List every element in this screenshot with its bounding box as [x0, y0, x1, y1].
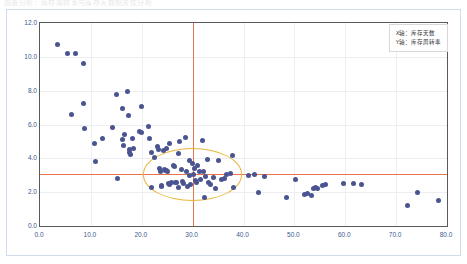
x-tick-label: 60.0: [338, 231, 351, 238]
data-point: [55, 42, 60, 47]
data-point: [228, 171, 233, 176]
data-point: [125, 89, 130, 94]
data-point: [201, 169, 206, 174]
y-tick-label: 2.0: [28, 188, 37, 195]
data-point: [284, 195, 289, 200]
data-point: [200, 138, 205, 143]
data-point: [252, 172, 257, 177]
gridline-horizontal: [40, 125, 447, 126]
data-point: [415, 190, 420, 195]
data-point: [147, 136, 152, 141]
x-tick-label: 20.0: [134, 231, 147, 238]
data-point: [262, 174, 267, 179]
data-point: [110, 125, 115, 130]
data-point: [231, 185, 236, 190]
y-tick-label: 0.0: [28, 222, 37, 229]
y-tick-label: 10.0: [24, 52, 37, 59]
data-point: [164, 146, 169, 151]
data-point: [293, 177, 298, 182]
data-point: [216, 158, 221, 163]
y-tick-label: 12.0: [24, 19, 37, 26]
data-point: [82, 126, 87, 131]
data-point: [351, 181, 356, 186]
data-point: [93, 159, 98, 164]
gridline-vertical: [447, 23, 448, 226]
y-tick-label: 4.0: [28, 154, 37, 161]
top-cutoff-text: 图表分析：库存周转率与库存天数相关性分析: [4, 0, 152, 7]
gridline-horizontal: [40, 158, 447, 159]
data-point: [165, 169, 170, 174]
data-point: [256, 190, 261, 195]
data-point: [126, 113, 131, 118]
data-point: [131, 146, 136, 151]
data-point: [359, 182, 364, 187]
data-point: [73, 51, 78, 56]
data-point: [315, 186, 320, 191]
data-point: [156, 147, 161, 152]
y-axis-tick-labels: 0.02.04.06.08.010.012.0: [13, 22, 37, 227]
data-point: [69, 112, 74, 117]
y-tick-label: 8.0: [28, 86, 37, 93]
gridline-horizontal: [40, 57, 447, 58]
data-point: [120, 137, 125, 142]
data-point: [114, 92, 119, 97]
data-point: [149, 185, 154, 190]
x-tick-label: 10.0: [84, 231, 97, 238]
data-point: [341, 181, 346, 186]
x-tick-label: 50.0: [287, 231, 300, 238]
data-point: [121, 143, 126, 148]
legend-line: Y轴：库存周转率: [396, 38, 441, 47]
data-point: [92, 141, 97, 146]
chart-container: 0.02.04.06.08.010.012.0 0.010.020.030.04…: [6, 9, 461, 256]
x-tick-label: 0.0: [34, 231, 43, 238]
data-point: [436, 198, 441, 203]
data-point: [115, 176, 120, 181]
data-point: [146, 124, 151, 129]
data-point: [100, 136, 105, 141]
data-point: [139, 104, 144, 109]
gridline-horizontal: [40, 192, 447, 193]
legend-line: X轴：库存天数: [396, 29, 441, 38]
x-axis-tick-labels: 0.010.020.030.040.050.060.070.080.0: [39, 231, 448, 243]
x-tick-label: 80.0: [440, 231, 453, 238]
scatter-chart-screenshot: 图表分析：库存周转率与库存天数相关性分析 0.02.04.06.08.010.0…: [0, 0, 467, 264]
x-tick-label: 70.0: [389, 231, 402, 238]
data-point: [128, 152, 133, 157]
data-point: [65, 51, 70, 56]
gridline-horizontal: [40, 91, 447, 92]
x-tick-label: 30.0: [185, 231, 198, 238]
data-point: [81, 61, 86, 66]
data-point: [159, 184, 164, 189]
data-point: [120, 106, 125, 111]
data-point: [183, 135, 188, 140]
top-cutoff-text-strip: 图表分析：库存周转率与库存天数相关性分析: [0, 0, 467, 9]
data-point: [176, 151, 181, 156]
data-point: [81, 101, 86, 106]
plot-area: [39, 22, 448, 227]
data-point: [323, 182, 328, 187]
data-point: [405, 203, 410, 208]
data-point: [167, 141, 172, 146]
reference-line-horizontal: [40, 174, 447, 175]
data-point: [139, 130, 144, 135]
data-point: [309, 193, 314, 198]
legend: X轴：库存天数Y轴：库存周转率: [389, 24, 448, 52]
y-tick-label: 6.0: [28, 120, 37, 127]
data-point: [130, 136, 135, 141]
data-point: [177, 139, 182, 144]
data-point: [246, 173, 251, 178]
x-tick-label: 40.0: [236, 231, 249, 238]
